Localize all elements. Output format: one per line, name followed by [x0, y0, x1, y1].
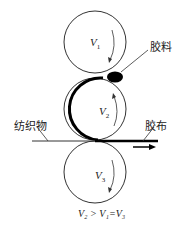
- roller-v1-label: V1: [90, 36, 100, 51]
- calender-diagram: 胶料 纺织物 胶布 V1 V2 V3 V₂ > V₁=V₃: [0, 0, 176, 226]
- rubber-layer: [69, 78, 103, 140]
- glue-blob: [107, 72, 123, 83]
- speed-formula: V₂ > V₁=V₃: [78, 208, 125, 219]
- diagram-graphics: [0, 0, 176, 226]
- glue-leader: [121, 50, 148, 72]
- rotation-arrow-top: [110, 30, 114, 60]
- glue-label: 胶料: [150, 38, 172, 54]
- rubber-cloth-label: 胶布: [145, 117, 167, 133]
- arrow-head-icon: [149, 144, 156, 150]
- roller-v2-label: V2: [99, 105, 109, 120]
- rotation-arrow-bottom: [110, 160, 114, 190]
- fabric-label: 纺织物: [14, 117, 47, 133]
- rotation-arrow-middle: [114, 96, 117, 126]
- roller-v3-label: V3: [95, 169, 105, 184]
- arrow-head-icon: [112, 93, 116, 99]
